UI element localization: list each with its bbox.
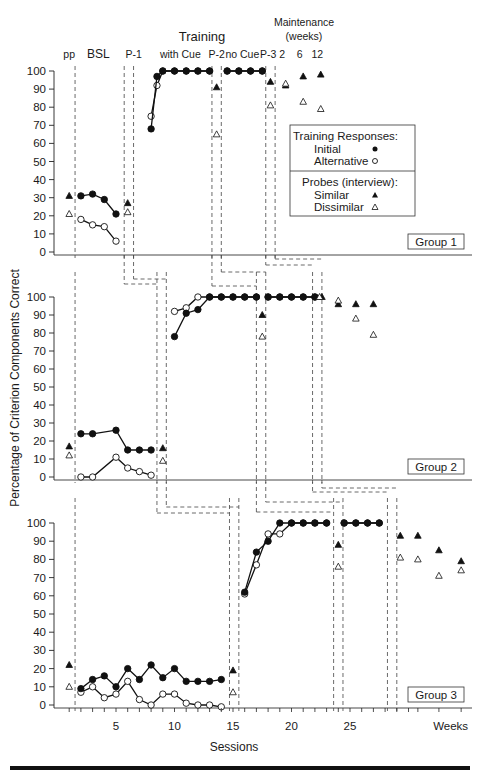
y-tick-label: 60 xyxy=(33,590,46,602)
y-tick-label: 90 xyxy=(33,535,46,547)
initial-point xyxy=(300,294,306,300)
initial-point xyxy=(242,294,248,300)
dissimilar-probe-point xyxy=(66,210,73,216)
maintenance-weeks-subtitle: (weeks) xyxy=(286,30,323,42)
y-tick-label: 50 xyxy=(33,381,46,393)
phase-label: P-1 xyxy=(125,48,142,60)
initial-point xyxy=(253,549,259,555)
similar-probe-point xyxy=(213,84,220,90)
initial-point xyxy=(89,191,95,197)
y-tick-label: 10 xyxy=(33,228,46,240)
initial-point xyxy=(195,306,201,312)
initial-point xyxy=(206,294,212,300)
similar-probe-point xyxy=(370,301,377,307)
initial-point xyxy=(364,520,370,526)
initial-point xyxy=(206,68,212,74)
dissimilar-probe-point xyxy=(66,452,73,458)
y-tick-label: 40 xyxy=(33,399,46,411)
y-tick-label: 0 xyxy=(40,246,46,258)
initial-point xyxy=(113,427,119,433)
initial-point xyxy=(148,126,154,132)
legend-similar-label: Similar xyxy=(314,189,349,201)
alternative-point xyxy=(113,454,119,460)
legend-open-circle-icon xyxy=(373,159,378,164)
alternative-point xyxy=(277,531,283,537)
initial-point xyxy=(160,675,166,681)
alternative-point xyxy=(136,468,142,474)
dissimilar-probe-point xyxy=(124,209,131,215)
initial-line xyxy=(245,523,327,592)
y-tick-label: 60 xyxy=(33,137,46,149)
panel-group-2: 0102030405060708090100Group 2 xyxy=(27,272,472,483)
x-axis: 510152025Weeks xyxy=(69,708,468,732)
alternative-point xyxy=(265,531,271,537)
alternative-point xyxy=(195,702,201,708)
initial-point xyxy=(277,520,283,526)
similar-probe-point xyxy=(353,301,360,307)
alternative-line xyxy=(245,523,327,594)
phase-label: 12 xyxy=(311,48,323,60)
initial-point xyxy=(206,678,212,684)
dissimilar-probe-point xyxy=(300,98,307,104)
phase-change-connectors xyxy=(124,255,397,513)
initial-point xyxy=(113,211,119,217)
y-tick-label: 10 xyxy=(33,681,46,693)
y-tick-label: 70 xyxy=(33,572,46,584)
dissimilar-probe-point xyxy=(66,683,73,689)
dissimilar-probe-point xyxy=(335,297,342,303)
initial-line xyxy=(81,194,116,214)
alternative-point xyxy=(154,82,160,88)
initial-point xyxy=(218,676,224,682)
y-tick-label: 90 xyxy=(33,83,46,95)
similar-probe-point xyxy=(124,200,131,206)
bottom-rule xyxy=(10,766,470,770)
similar-probe-point xyxy=(230,667,237,673)
similar-probe-point xyxy=(66,661,73,667)
x-tick-label: 25 xyxy=(344,720,357,732)
alternative-point xyxy=(89,474,95,480)
y-tick-label: 100 xyxy=(27,291,46,303)
y-tick-label: 30 xyxy=(33,644,46,656)
alternative-point xyxy=(195,294,201,300)
legend-initial-label: Initial xyxy=(314,143,341,155)
alternative-point xyxy=(206,702,212,708)
alternative-point xyxy=(148,702,154,708)
x-tick-label: 5 xyxy=(113,720,119,732)
alternative-point xyxy=(101,223,107,229)
alternative-point xyxy=(101,695,107,701)
phase-labels: ppBSLP-1with CueP-2no CueP-32612 xyxy=(63,47,323,61)
y-tick-label: 0 xyxy=(40,471,46,483)
initial-point xyxy=(195,678,201,684)
initial-point xyxy=(353,520,359,526)
alternative-point xyxy=(160,691,166,697)
multiple-baseline-chart: Training Maintenance (weeks) ppBSLP-1wit… xyxy=(0,0,488,776)
initial-point xyxy=(218,294,224,300)
alternative-point xyxy=(125,678,131,684)
similar-probe-point xyxy=(415,532,422,538)
initial-point xyxy=(101,196,107,202)
phase-label: 2 xyxy=(279,48,285,60)
y-tick-label: 80 xyxy=(33,101,46,113)
initial-point xyxy=(125,665,131,671)
initial-point xyxy=(89,676,95,682)
initial-point xyxy=(154,73,160,79)
similar-probe-point xyxy=(300,73,307,79)
dissimilar-probe-point xyxy=(335,563,342,569)
weeks-label: Weeks xyxy=(433,720,468,732)
dissimilar-probe-point xyxy=(415,556,422,562)
y-tick-label: 40 xyxy=(33,626,46,638)
alternative-point xyxy=(78,474,84,480)
y-tick-label: 80 xyxy=(33,553,46,565)
similar-probe-point xyxy=(160,445,167,451)
y-tick-label: 0 xyxy=(40,699,46,711)
similar-probe-point xyxy=(436,547,443,553)
group-label: Group 1 xyxy=(415,236,457,248)
dissimilar-probe-point xyxy=(230,689,237,695)
initial-point xyxy=(89,431,95,437)
similar-probe-point xyxy=(317,71,324,77)
initial-point xyxy=(113,684,119,690)
initial-point xyxy=(288,294,294,300)
initial-point xyxy=(253,294,259,300)
legend-training-title: Training Responses: xyxy=(293,130,398,142)
initial-point xyxy=(236,68,242,74)
